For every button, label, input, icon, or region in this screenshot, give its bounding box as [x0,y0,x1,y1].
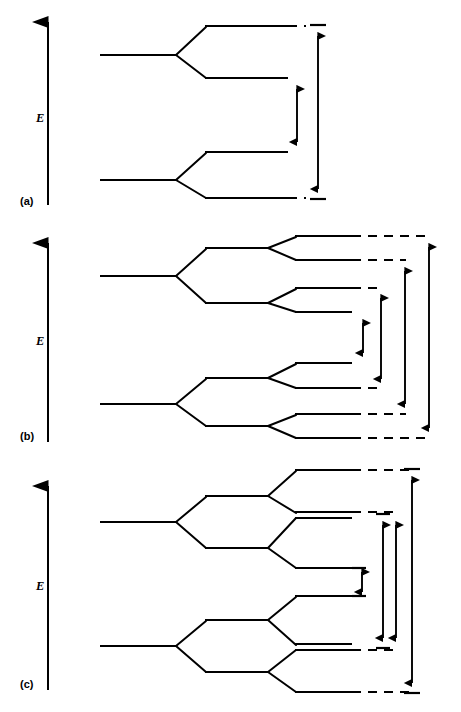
panel-c-connector-u1 [268,471,296,496]
panel-c-label: (c) [20,678,34,690]
energy-level-figure: E (a) [0,0,461,712]
panel-c-connector-l1 [268,597,296,620]
panel-a: E (a) [20,22,326,207]
panel-b-connector-l2 [268,378,296,388]
panel-a-connector-lower-2 [176,180,206,198]
panel-c-transition-arrow-outer [404,469,420,693]
panel-b-connector-u1 [268,237,296,248]
panel-c-connector-u2 [268,496,296,513]
panel-c-connector-l3 [268,650,296,672]
panel-a-transition-arrow-outer [310,25,326,199]
panel-c-axis-label: E [35,579,44,593]
panel-c-connector-l-a [176,621,206,646]
panel-b-connector-u3 [268,289,296,303]
panel-b-connector-l4 [268,426,296,438]
panel-a-connector-upper-2 [176,55,206,78]
panel-c-connector-l-b [176,646,206,672]
energy-level-diagram: E (a) [0,0,461,712]
panel-c-connector-l4 [268,672,296,692]
panel-b-connector-l-a [176,379,206,404]
panel-a-label: (a) [20,195,34,207]
panel-b-connector-u4 [268,303,296,312]
panel-b-label: (b) [20,430,34,442]
panel-c-connector-l2 [268,620,296,645]
panel-b-connector-l1 [268,364,296,378]
panel-c-connector-u-a [176,497,206,522]
panel-c-transition-arrow-2 [376,514,390,648]
panel-c-connector-u-b [176,522,206,548]
panel-b-connector-l-b [176,404,206,426]
panel-a-connector-lower-1 [176,153,206,180]
panel-b-axis-label: E [35,334,44,348]
panel-c-connector-u3 [268,518,296,548]
panel-c-connector-u4 [268,548,296,568]
panel-b-connector-u-b [176,276,206,303]
panel-b-connector-u-a [176,249,206,276]
panel-b-connector-l3 [268,415,296,426]
panel-b-connector-u2 [268,248,296,260]
panel-a-axis-label: E [35,111,44,125]
panel-c: E (c) [20,469,420,693]
panel-a-connector-upper-1 [176,27,206,55]
panel-b: E (b) [20,236,430,442]
panel-c-transition-arrow-small [352,568,366,596]
